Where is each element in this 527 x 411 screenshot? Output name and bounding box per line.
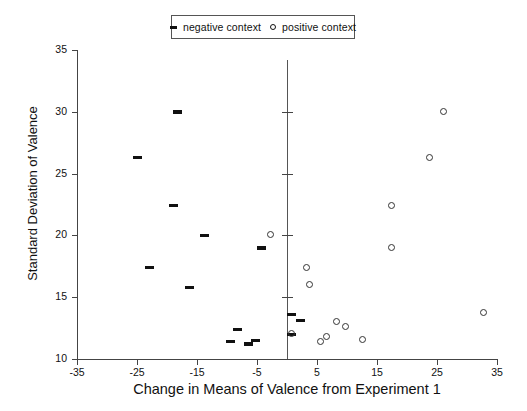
data-point-positive-context <box>288 330 295 337</box>
x-axis-title: Change in Means of Valence from Experime… <box>77 381 497 397</box>
data-point-negative-context <box>173 110 182 114</box>
zero-line-tick-mark <box>282 112 293 113</box>
x-tick-label: 5 <box>302 366 332 378</box>
x-tick-mark <box>317 359 318 365</box>
data-point-negative-context <box>244 342 253 346</box>
x-tick-mark <box>137 359 138 365</box>
data-point-negative-context <box>287 313 296 317</box>
x-tick-label: -35 <box>62 366 92 378</box>
data-point-positive-context <box>303 264 310 271</box>
legend-label-positive-context: positive context <box>282 21 356 33</box>
data-point-positive-context <box>440 108 447 115</box>
y-axis-title: Standard Deviation of Valence <box>25 89 40 299</box>
x-tick-label: 35 <box>482 366 512 378</box>
legend-label-negative-context: negative context <box>183 21 261 33</box>
data-point-positive-context <box>388 202 395 209</box>
data-point-negative-context <box>133 156 142 160</box>
x-tick-label: 25 <box>422 366 452 378</box>
x-axis-line <box>77 359 498 360</box>
x-tick-mark <box>197 359 198 365</box>
y-tick-mark <box>72 174 78 175</box>
data-point-positive-context <box>342 323 349 330</box>
y-tick-label: 20 <box>41 228 67 240</box>
y-tick-mark <box>72 50 78 51</box>
y-tick-mark <box>72 297 78 298</box>
y-tick-label: 30 <box>41 105 67 117</box>
x-tick-label: -15 <box>182 366 212 378</box>
chart-legend: negative context positive context <box>171 15 355 39</box>
zero-line-tick-mark <box>282 174 293 175</box>
dash-marker-icon <box>170 26 177 29</box>
x-tick-mark <box>257 359 258 365</box>
data-point-negative-context <box>233 328 242 332</box>
x-tick-mark <box>497 359 498 365</box>
y-tick-mark <box>72 112 78 113</box>
data-point-positive-context <box>306 281 313 288</box>
x-tick-label: 15 <box>362 366 392 378</box>
y-tick-label: 35 <box>41 43 67 55</box>
data-point-negative-context <box>296 319 305 323</box>
data-point-negative-context <box>251 339 260 343</box>
y-tick-mark <box>72 235 78 236</box>
data-point-negative-context <box>185 286 194 290</box>
x-tick-mark <box>437 359 438 365</box>
data-point-positive-context <box>359 336 366 343</box>
data-point-negative-context <box>226 340 235 344</box>
x-tick-label: -25 <box>122 366 152 378</box>
data-point-positive-context <box>267 231 274 238</box>
zero-line-tick-mark <box>282 235 293 236</box>
data-point-negative-context <box>257 246 266 250</box>
y-tick-label: 10 <box>41 352 67 364</box>
data-point-positive-context <box>426 154 433 161</box>
legend-entry-negative-context: negative context <box>170 21 261 33</box>
y-tick-label: 25 <box>41 167 67 179</box>
zero-line-tick-mark <box>282 297 293 298</box>
data-point-positive-context <box>388 244 395 251</box>
data-point-negative-context <box>169 204 178 208</box>
data-point-positive-context <box>323 333 330 340</box>
circle-marker-icon <box>270 24 276 30</box>
x-tick-mark <box>377 359 378 365</box>
x-tick-label: -5 <box>242 366 272 378</box>
data-point-negative-context <box>145 266 154 270</box>
x-tick-mark <box>77 359 78 365</box>
y-axis-line <box>77 50 78 360</box>
data-point-positive-context <box>317 338 324 345</box>
legend-entry-positive-context: positive context <box>270 21 356 33</box>
data-point-positive-context <box>333 318 340 325</box>
scatter-plot: negative context positive context Standa… <box>0 0 527 411</box>
y-tick-label: 15 <box>41 290 67 302</box>
data-point-negative-context <box>200 234 209 238</box>
data-point-positive-context <box>480 309 487 316</box>
